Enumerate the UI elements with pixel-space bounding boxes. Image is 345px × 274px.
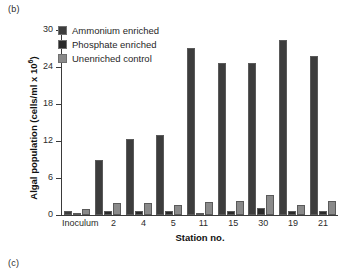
legend-item[interactable]: Ammonium enriched [58,24,159,37]
x-axis-tick-label: 2 [99,218,129,232]
legend-item[interactable]: Unenriched control [58,52,159,65]
bar[interactable] [236,201,244,215]
bar[interactable] [257,208,265,215]
bar[interactable] [126,139,134,215]
x-axis-tick-label: 5 [158,218,188,232]
y-axis-title-suffix: ) [28,56,39,59]
x-axis-tick-label: 4 [128,218,158,232]
bar[interactable] [205,202,213,215]
bar[interactable] [279,40,287,215]
x-axis-tick-labels: Inoculum2451115301921 [62,218,338,232]
y-axis-tick [56,67,61,68]
x-axis-tick-label: 19 [278,218,308,232]
legend-swatch-icon [58,40,67,49]
legend-swatch-icon [58,26,67,35]
x-axis-tick-label: 11 [188,218,218,232]
bar[interactable] [218,63,226,215]
bar[interactable] [95,160,103,216]
x-axis-tick-label: 30 [248,218,278,232]
bar-group [215,30,246,215]
bar[interactable] [187,48,195,215]
x-axis-title: Station no. [62,232,338,243]
panel-label-c: (c) [8,258,19,268]
bar[interactable] [248,63,256,215]
bar[interactable] [266,195,274,215]
legend-item-label: Phosphate enriched [72,39,157,50]
y-axis-tick [56,141,61,142]
bar[interactable] [310,56,318,215]
bar-group [185,30,216,215]
chart-legend: Ammonium enrichedPhosphate enrichedUnenr… [58,24,159,65]
bar[interactable] [113,203,121,215]
legend-item-label: Ammonium enriched [72,25,159,36]
y-axis-tick [56,104,61,105]
bar[interactable] [174,205,182,215]
y-axis-title-exponent: 6 [27,60,34,64]
x-axis-tick-label: Inoculum [62,218,99,232]
y-axis-tick [56,178,61,179]
x-axis-tick-label: 21 [308,218,338,232]
x-axis-tick-label: 15 [218,218,248,232]
legend-swatch-icon [58,54,67,63]
bar[interactable] [156,135,164,215]
panel-label-b: (b) [8,4,20,14]
bar-group [277,30,308,215]
legend-item-label: Unenriched control [72,53,152,64]
bar[interactable] [328,201,336,215]
bar-group [246,30,277,215]
legend-item[interactable]: Phosphate enriched [58,38,159,51]
bar[interactable] [144,203,152,215]
bar[interactable] [297,205,305,215]
bar-group [307,30,338,215]
bar-chart-figure: 0612182430 Algal population (cells/ml x … [0,18,345,250]
x-axis-line [61,215,338,216]
y-axis-title-text: Algal population (cells/ml x 10 [28,64,39,200]
y-axis-title: Algal population (cells/ml x 106) [27,33,39,223]
